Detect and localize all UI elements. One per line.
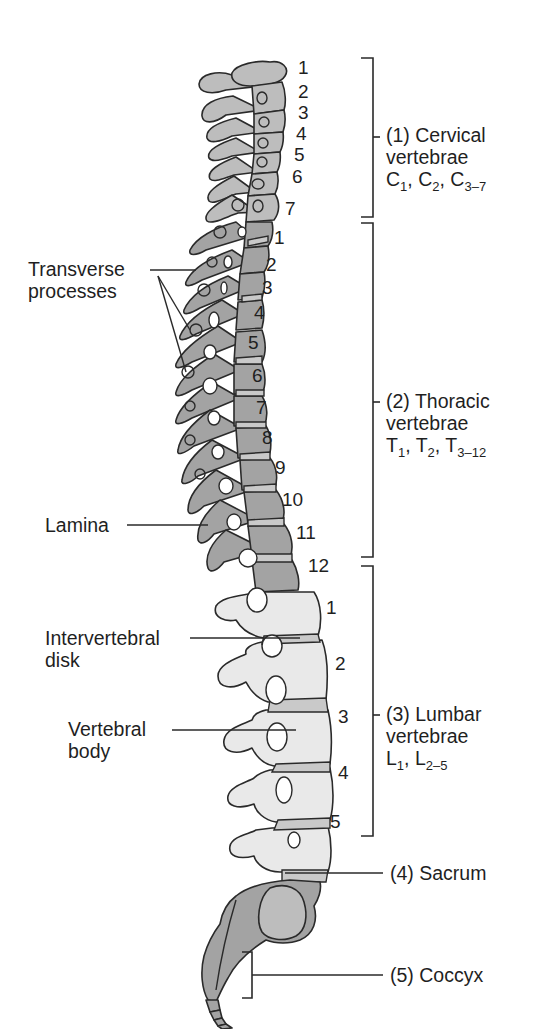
c-number: 6 bbox=[292, 167, 303, 187]
callout-line2: disk bbox=[45, 649, 160, 671]
vertebral-body-label: Vertebral body bbox=[68, 718, 146, 762]
thoracic-region-label: (2) Thoracic vertebrae T1, T2, T3–12 bbox=[386, 390, 490, 464]
region-index: (4) bbox=[390, 862, 414, 884]
lumbar-vertebrae bbox=[215, 588, 333, 882]
region-name: Thoracic bbox=[415, 390, 490, 412]
region-formula: C1, C2, C3–7 bbox=[386, 168, 486, 198]
thoracic-vertebrae bbox=[176, 222, 299, 592]
sacrum-region-label: (4) Sacrum bbox=[390, 862, 486, 884]
t-number: 12 bbox=[308, 556, 329, 576]
l-number: 1 bbox=[326, 598, 337, 618]
coccyx-region-label: (5) Coccyx bbox=[390, 964, 483, 986]
region-name: Lumbar bbox=[415, 703, 481, 725]
t-number: 7 bbox=[256, 398, 267, 418]
callout-line1: Vertebral bbox=[68, 718, 146, 740]
cervical-region-label: (1) Cervical vertebrae C1, C2, C3–7 bbox=[386, 124, 486, 198]
callout-line2: body bbox=[68, 740, 146, 762]
cervical-vertebrae bbox=[199, 61, 287, 222]
t-number: 6 bbox=[252, 366, 263, 386]
l-number: 4 bbox=[338, 763, 349, 783]
callout-line2: processes bbox=[28, 280, 125, 302]
region-subtitle: vertebrae bbox=[386, 412, 490, 434]
c-number: 2 bbox=[298, 82, 309, 102]
transverse-processes-label: Transverse processes bbox=[28, 258, 125, 302]
t-number: 3 bbox=[262, 278, 273, 298]
l-number: 3 bbox=[338, 707, 349, 727]
c-number: 7 bbox=[285, 199, 296, 219]
lamina-label: Lamina bbox=[45, 514, 109, 536]
t-number: 5 bbox=[248, 333, 259, 353]
region-subtitle: vertebrae bbox=[386, 725, 481, 747]
t-number: 10 bbox=[282, 490, 303, 510]
t-number: 2 bbox=[266, 255, 277, 275]
region-name: Sacrum bbox=[419, 862, 486, 884]
l-number: 5 bbox=[330, 812, 341, 832]
c-number: 5 bbox=[294, 145, 305, 165]
callout-line1: Transverse bbox=[28, 258, 125, 280]
intervertebral-disk-label: Intervertebral disk bbox=[45, 627, 160, 671]
region-formula: T1, T2, T3–12 bbox=[386, 434, 490, 464]
region-name: Coccyx bbox=[419, 964, 483, 986]
lumbar-region-label: (3) Lumbar vertebrae L1, L2–5 bbox=[386, 703, 481, 777]
region-name: Cervical bbox=[415, 124, 485, 146]
region-index: (3) bbox=[386, 703, 410, 725]
callout-line1: Intervertebral bbox=[45, 627, 160, 649]
callout-line1: Lamina bbox=[45, 514, 109, 536]
t-number: 8 bbox=[262, 428, 273, 448]
region-index: (1) bbox=[386, 124, 410, 146]
vertebral-column-diagram: .dk{fill:#a3a3a3;stroke:#2a2a2a;stroke-w… bbox=[0, 0, 544, 1029]
region-index: (2) bbox=[386, 390, 410, 412]
sacrum bbox=[202, 880, 321, 1002]
t-number: 9 bbox=[275, 458, 286, 478]
t-number: 11 bbox=[296, 523, 316, 543]
region-formula: L1, L2–5 bbox=[386, 747, 481, 777]
t-number: 4 bbox=[254, 303, 265, 323]
region-index: (5) bbox=[390, 964, 414, 986]
coccyx bbox=[206, 1000, 232, 1029]
l-number: 2 bbox=[335, 654, 346, 674]
region-subtitle: vertebrae bbox=[386, 146, 486, 168]
c-number: 3 bbox=[298, 103, 309, 123]
t-number: 1 bbox=[274, 228, 285, 248]
c-number: 4 bbox=[296, 124, 307, 144]
c-number: 1 bbox=[298, 58, 309, 78]
